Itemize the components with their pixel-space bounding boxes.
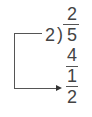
remainder: 1 — [65, 67, 79, 85]
quotient: 2 — [65, 5, 79, 23]
arrow-right-icon — [56, 85, 62, 91]
dividend: 5 — [65, 26, 79, 44]
connector-vertical — [14, 33, 15, 89]
connector-bottom — [14, 88, 56, 89]
divisor: 2 — [43, 26, 57, 44]
remainder-denominator: 2 — [65, 88, 79, 106]
division-bracket: ) — [57, 25, 63, 43]
connector-top — [14, 33, 42, 34]
product: 4 — [65, 46, 79, 64]
